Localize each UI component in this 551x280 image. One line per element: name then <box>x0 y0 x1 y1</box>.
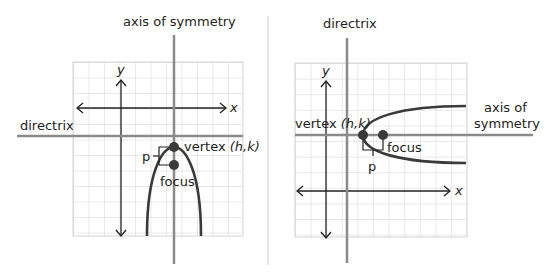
left-p-label: p <box>142 149 150 164</box>
left-vertex-label: vertex (h,k) <box>184 139 260 154</box>
right-vertex-label: vertex (h,k) <box>295 116 371 131</box>
left-diagram: x y directrix axis of symmetry p vertex … <box>17 14 260 264</box>
left-vertex-point <box>169 142 179 152</box>
left-focus-label: focus <box>160 174 195 189</box>
left-directrix-label: directrix <box>20 118 74 133</box>
left-vertex-label-coords: (h,k) <box>230 139 260 154</box>
left-focus-point <box>169 160 179 170</box>
right-diagram: x y directrix axis of symmetry p vertex … <box>295 16 540 263</box>
right-directrix-title: directrix <box>323 16 377 31</box>
right-vertex-label-coords: (h,k) <box>341 116 371 131</box>
right-vertex-point <box>358 130 368 140</box>
parabola-diagrams: x y directrix axis of symmetry p vertex … <box>0 0 551 280</box>
right-axis-label-line1: axis of <box>484 100 527 115</box>
right-vertex-label-prefix: vertex <box>295 116 341 131</box>
right-p-label: p <box>368 159 376 174</box>
right-axis-label-line2: symmetry <box>474 116 540 131</box>
left-vertex-label-prefix: vertex <box>184 139 230 154</box>
right-focus-label: focus <box>387 140 422 155</box>
left-x-axis-label: x <box>229 100 238 115</box>
right-y-axis-label: y <box>321 63 330 78</box>
left-y-axis-label: y <box>116 62 125 77</box>
left-axis-of-symmetry-title: axis of symmetry <box>123 14 236 29</box>
right-focus-point <box>378 130 388 140</box>
right-x-axis-label: x <box>454 183 463 198</box>
